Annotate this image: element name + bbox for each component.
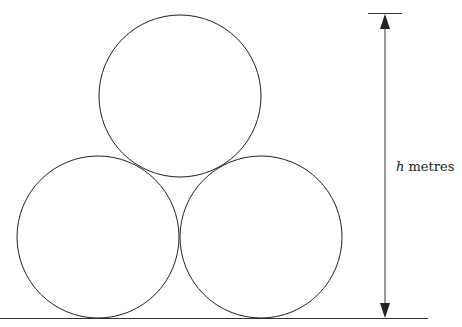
height-label: h metres [396, 159, 454, 174]
circle-bottom-left [17, 156, 179, 318]
circle-top [99, 15, 261, 177]
arrowhead-up-icon [380, 14, 390, 29]
arrowhead-down-icon [380, 303, 390, 318]
circle-bottom-right [180, 156, 342, 318]
diagram-canvas: h metres [0, 0, 462, 327]
